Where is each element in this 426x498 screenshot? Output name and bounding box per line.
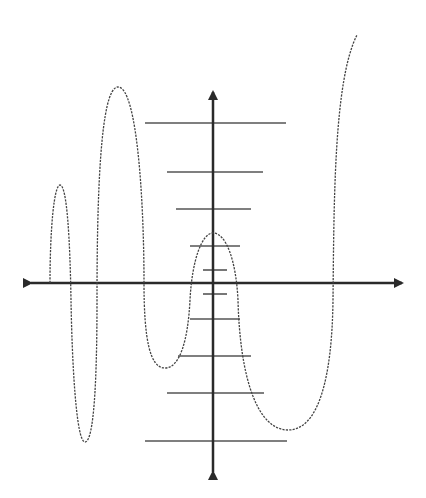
dashed-curve xyxy=(50,35,357,442)
diagram-svg xyxy=(0,0,426,498)
diagram-canvas xyxy=(0,0,426,498)
